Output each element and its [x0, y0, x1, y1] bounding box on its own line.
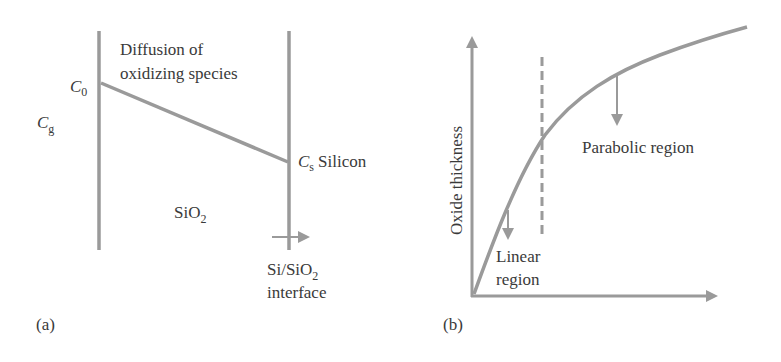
panel-a-caption: (a) — [36, 315, 55, 334]
panel-b: Oxide thickness Linear region Parabolic … — [443, 27, 747, 334]
linear-region-label-line1: Linear — [496, 247, 541, 266]
c0-label: C0 — [70, 77, 87, 99]
concentration-profile-line — [101, 83, 288, 162]
cg-label: Cg — [37, 113, 54, 136]
linear-region-label-line2: region — [496, 270, 540, 289]
oxidation-diagram: Diffusion of oxidizing species C0 Cg CsS… — [0, 0, 781, 362]
sio2-label: SiO2 — [174, 203, 206, 226]
parabolic-region-label: Parabolic region — [582, 138, 694, 157]
cs-silicon-label: CsSilicon — [298, 152, 367, 174]
interface-label-line2: interface — [267, 283, 326, 302]
diffusion-label-line2: oxidizing species — [120, 64, 238, 83]
diffusion-label-line1: Diffusion of — [120, 40, 204, 59]
panel-b-caption: (b) — [443, 315, 463, 334]
panel-a: Diffusion of oxidizing species C0 Cg CsS… — [36, 31, 367, 334]
y-axis-label: Oxide thickness — [447, 126, 466, 235]
interface-label-line1: Si/SiO2 — [267, 260, 318, 283]
